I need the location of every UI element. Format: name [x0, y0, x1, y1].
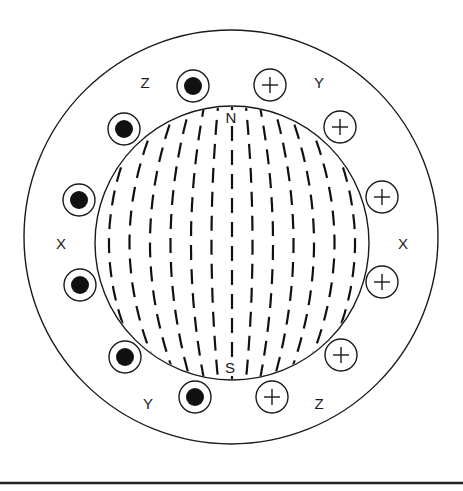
conductor-dot-icon	[64, 269, 96, 301]
conductor-cross-icon	[254, 69, 286, 101]
conductor-dot-icon	[177, 70, 209, 102]
conductor-cross-icon	[366, 181, 398, 213]
phase-label-x: X	[56, 235, 66, 252]
phase-label-y: Y	[314, 74, 324, 91]
conductor-dot-icon	[179, 381, 211, 413]
field-line	[300, 102, 335, 384]
field-line	[150, 102, 178, 384]
field-line	[171, 102, 192, 384]
phase-label-z: Z	[314, 395, 323, 412]
conductor-cross-icon	[366, 266, 398, 298]
pole-label-s: S	[225, 359, 235, 376]
conductor-cross-icon	[324, 111, 356, 143]
rotor-pole-labels: NS	[223, 109, 238, 376]
phase-label-x: X	[398, 235, 408, 252]
phase-label-y: Y	[143, 395, 153, 412]
conductor-dot-icon	[109, 341, 141, 373]
field-line	[273, 102, 294, 384]
field-line	[286, 102, 314, 384]
conductor-dot-icon	[63, 184, 95, 216]
field-line	[246, 102, 253, 384]
motor-field-diagram: ZYXXYZ NS	[0, 0, 463, 491]
field-line	[130, 102, 165, 384]
conductor-dot-icon	[108, 113, 140, 145]
magnetic-field-lines	[109, 102, 355, 384]
conductor-cross-icon	[256, 381, 288, 413]
field-line	[259, 102, 273, 384]
phase-label-z: Z	[140, 74, 149, 91]
rotor	[95, 106, 369, 380]
field-line	[212, 102, 219, 384]
field-line	[191, 102, 205, 384]
rotor-circle	[95, 106, 369, 380]
conductor-cross-icon	[325, 339, 357, 371]
pole-label-n: N	[226, 109, 237, 126]
